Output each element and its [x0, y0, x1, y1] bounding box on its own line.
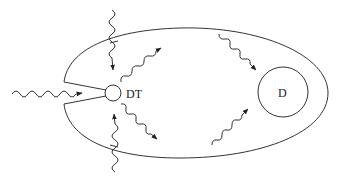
wave-arrow-bottom-vertical	[112, 114, 118, 172]
wave-arrow-dt-up-right	[121, 48, 161, 82]
wave-arrow-dt-down-right	[121, 104, 157, 139]
wave-arrow-to-d-bottom	[212, 109, 248, 145]
detector-label: DT	[126, 87, 143, 101]
target-label: D	[278, 86, 287, 100]
funnel-lower-line	[64, 96, 106, 104]
cavity-wall	[64, 28, 328, 158]
wave-arrow-to-d-top	[219, 34, 256, 70]
diagram-canvas: DT D	[0, 0, 337, 182]
funnel-upper-line	[64, 82, 106, 90]
wave-arrow-incoming-left	[12, 91, 82, 97]
wave-arrow-top-vertical	[109, 10, 115, 70]
detector-circle	[105, 85, 121, 101]
